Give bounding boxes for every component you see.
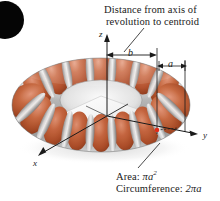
- z-axis-label: z: [99, 29, 103, 39]
- y-axis-arrowhead: [190, 130, 199, 136]
- x-axis-label: x: [33, 158, 37, 168]
- torus-illustration: [0, 0, 220, 201]
- dimension-a-label: a: [168, 58, 173, 69]
- circumference-note: Circumference: 2πa: [116, 183, 201, 195]
- area-note: Area: πa2: [116, 170, 157, 182]
- circumference-value: 2πa: [185, 183, 201, 194]
- z-axis-arrowhead: [104, 34, 110, 42]
- area-label: Area:: [116, 171, 143, 182]
- leader-line-top: [124, 28, 144, 52]
- centroid-dot: [155, 128, 160, 133]
- area-value: πa: [143, 171, 154, 182]
- circumference-label: Circumference:: [116, 183, 185, 194]
- area-exponent: 2: [153, 169, 157, 177]
- annotation-distance-line1: Distance from axis of: [104, 4, 197, 16]
- dimension-b-label: b: [128, 47, 133, 58]
- y-axis-label: y: [203, 130, 207, 140]
- annotation-distance-line2: revolution to centroid: [106, 16, 199, 28]
- torus-figure: Distance from axis of revolution to cent…: [0, 0, 220, 201]
